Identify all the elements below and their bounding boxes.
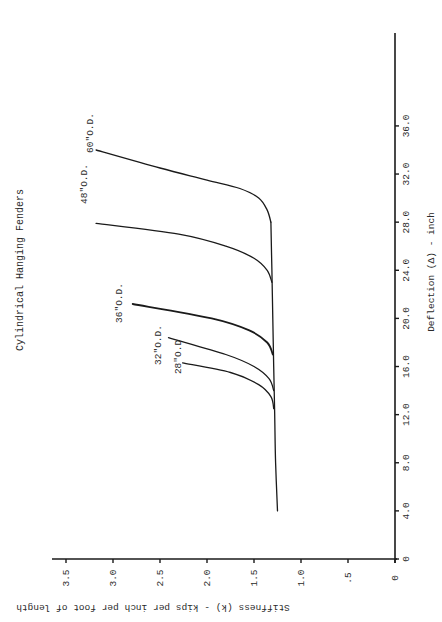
series-label-60: 60"O.D. [85, 113, 96, 153]
deflection-tick-label: 12.0 [401, 403, 412, 426]
deflection-tick-label: 8.0 [401, 454, 412, 471]
curves [96, 150, 277, 511]
stiffness-tick-label: .5 [343, 572, 354, 584]
curve-48in [96, 223, 272, 282]
series-label-36: 36"O.D. [114, 283, 125, 323]
stiffness-axis-title: Stiffness (k) - kips per inch per foot o… [16, 602, 290, 613]
series-label-48: 48"O.D. [79, 164, 90, 204]
series-label-32: 32"O.D. [153, 325, 164, 365]
deflection-tick-label: 16.0 [401, 355, 412, 378]
stiffness-tick-label: 1.5 [249, 569, 260, 586]
deflection-tick-label: 0 [401, 556, 412, 562]
deflection-tick-label: 28.0 [401, 210, 412, 233]
chart-title: Cylindrical Hanging Fenders [15, 189, 26, 351]
chart: Cylindrical Hanging Fenders 04.08.012.01… [0, 0, 442, 622]
curve-32in [169, 338, 274, 391]
deflection-tick-label: 20.0 [401, 307, 412, 330]
stiffness-tick-label: 2.0 [202, 569, 213, 586]
deflection-tick-label: 36.0 [401, 114, 412, 137]
stiffness-tick-label: 2.5 [155, 569, 166, 586]
deflection-ticks: 04.08.012.016.020.024.028.032.036.0 [395, 114, 412, 562]
stiffness-ticks: 0.51.01.52.02.53.03.5 [61, 559, 401, 587]
series-label-28: 28"O.D [173, 340, 184, 375]
deflection-tick-label: 32.0 [401, 162, 412, 185]
stiffness-tick-label: 3.5 [61, 569, 72, 586]
curve-60in [96, 150, 271, 222]
curve-baseline [271, 222, 278, 511]
deflection-axis-title: Deflection (Δ) - inch [426, 212, 437, 332]
stiffness-tick-label: 1.0 [296, 569, 307, 586]
deflection-tick-label: 4.0 [401, 502, 412, 519]
deflection-tick-label: 24.0 [401, 259, 412, 282]
stiffness-tick-label: 0 [390, 575, 401, 581]
stiffness-tick-label: 3.0 [108, 569, 119, 586]
